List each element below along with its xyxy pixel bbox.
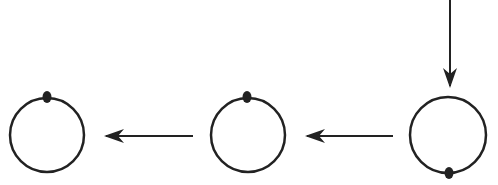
state-diagram: [0, 0, 498, 185]
node-right: [410, 97, 486, 179]
node-left: [10, 91, 84, 172]
marker-dot: [445, 167, 454, 179]
marker-dot: [243, 91, 252, 103]
node-middle: [211, 91, 285, 172]
marker-dot: [43, 91, 52, 103]
